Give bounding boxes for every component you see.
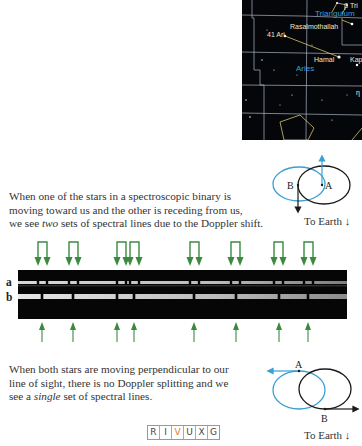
spectrum-row-label-a: a bbox=[6, 276, 12, 288]
wavelength-band-badge: R I V U X G bbox=[147, 425, 220, 440]
bottom-caption: When both stars are moving perpendicular… bbox=[9, 363, 269, 404]
band-x: X bbox=[196, 426, 208, 439]
single-line-arrows bbox=[0, 322, 362, 342]
down-arrow-icon: ↓ bbox=[345, 429, 351, 441]
constellation-label-aries: Aries bbox=[296, 64, 314, 73]
band-g: G bbox=[208, 426, 219, 439]
star-label-kap: Kap bbox=[350, 56, 362, 64]
star-b-label: B bbox=[321, 413, 328, 424]
star-label-eta: η bbox=[356, 89, 360, 97]
star-chart-image: β Tri Triangulum Rasalmothallah 41 Ari H… bbox=[242, 0, 362, 140]
band-v: V bbox=[172, 426, 184, 439]
star-label-hamal: Hamal bbox=[314, 56, 335, 63]
star-label-41-ari: 41 Ari bbox=[267, 31, 285, 38]
down-arrow-icon: ↓ bbox=[345, 215, 351, 227]
band-u: U bbox=[184, 426, 196, 439]
star-a-label: A bbox=[295, 360, 303, 370]
constellation-label-triangulum: Triangulum bbox=[315, 9, 355, 18]
orbit-diagram-single: A B bbox=[262, 360, 362, 428]
band-r: R bbox=[148, 426, 160, 439]
split-line-arrows bbox=[0, 240, 362, 270]
spectrum-row-label-b: b bbox=[6, 291, 12, 303]
to-earth-label-bottom: To Earth ↓ bbox=[304, 429, 350, 441]
to-earth-label-top: To Earth ↓ bbox=[304, 215, 350, 227]
star-b-label: B bbox=[287, 180, 294, 191]
band-i: I bbox=[160, 426, 172, 439]
spectrum-image bbox=[18, 270, 347, 319]
star-a-label: A bbox=[325, 180, 333, 191]
top-caption: When one of the stars in a spectroscopic… bbox=[9, 190, 289, 231]
star-label-rasalmothallah: Rasalmothallah bbox=[290, 23, 338, 30]
